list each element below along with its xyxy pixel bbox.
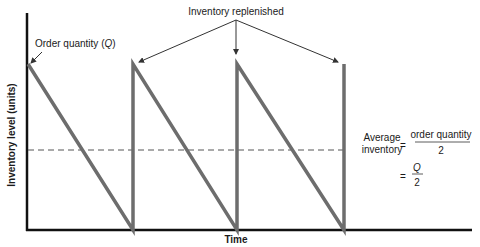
replenished-arrows (139, 20, 338, 62)
x-axis-label: Time (224, 234, 248, 245)
equals-sign-2: = (400, 171, 406, 182)
order-quantity-arrow (31, 52, 42, 63)
average-inventory-formula: Average inventory = order quantity 2 = Q… (362, 129, 472, 188)
formula-numerator-1: order quantity (410, 129, 471, 140)
average-label-line1: Average (363, 132, 401, 143)
formula-denominator-2: 2 (414, 177, 420, 188)
y-axis-label: Inventory level (units) (6, 83, 17, 186)
formula-denominator-1: 2 (438, 145, 444, 156)
inventory-diagram: Order quantity (Q) Inventory replenished… (0, 0, 480, 247)
inventory-replenished-label: Inventory replenished (188, 6, 284, 17)
formula-numerator-2: Q (413, 162, 421, 173)
order-quantity-label: Order quantity (Q) (35, 38, 116, 49)
equals-sign-1: = (400, 140, 406, 151)
sawtooth-inventory-line (28, 64, 344, 230)
average-label-line2: inventory (362, 144, 403, 155)
